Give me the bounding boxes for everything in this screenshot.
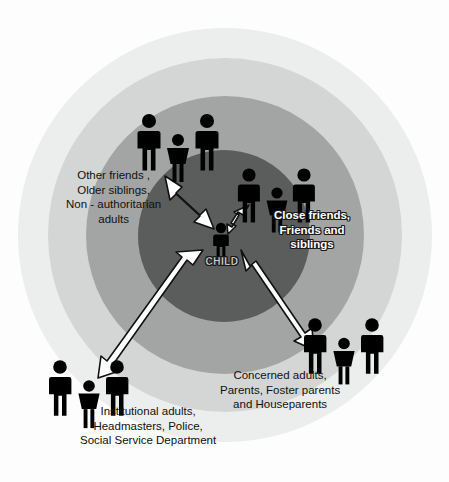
caption-line: Headmasters, Police,: [80, 419, 216, 434]
caption-concerned-adults: Concerned adults, Parents, Foster parent…: [220, 368, 340, 412]
caption-line: Non - authoritarian: [66, 197, 161, 212]
caption-other-friends: Other friends , Older siblings, Non - au…: [66, 168, 161, 226]
caption-line: and Houseparents: [220, 397, 340, 412]
caption-line: Institutional adults,: [80, 404, 216, 419]
caption-close-friends: Close friends, Friends and siblings: [274, 208, 350, 252]
caption-line: Older siblings,: [66, 183, 161, 198]
caption-line: Close friends,: [274, 208, 350, 223]
child-label: CHILD: [196, 256, 248, 267]
caption-line: Parents, Foster parents: [220, 383, 340, 398]
caption-line: siblings: [274, 237, 350, 252]
caption-line: adults: [66, 212, 161, 227]
caption-line: Other friends ,: [66, 168, 161, 183]
caption-line: Friends and: [274, 223, 350, 238]
caption-line: Social Service Department: [80, 433, 216, 448]
caption-institutional-adults: Institutional adults, Headmasters, Polic…: [80, 404, 216, 448]
diagram-canvas: other friends (upper-left) --> close fri…: [0, 0, 449, 482]
caption-line: Concerned adults,: [220, 368, 340, 383]
